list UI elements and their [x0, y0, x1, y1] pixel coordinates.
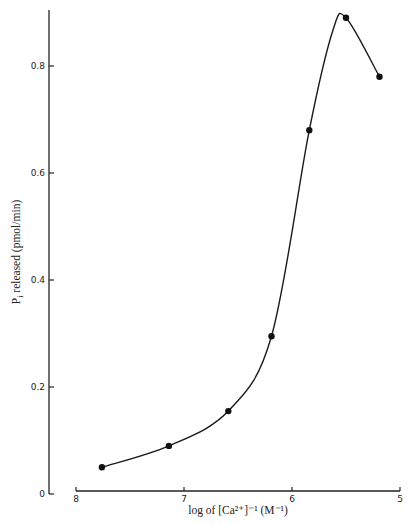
data-point — [99, 464, 105, 470]
data-point — [268, 333, 274, 339]
x-tick-label: 8 — [73, 494, 79, 504]
x-tick-label: 5 — [397, 494, 403, 504]
y-axis-label: Pi released (pmol/min) — [10, 200, 25, 305]
y-tick-label: 0 — [39, 489, 45, 499]
y-tick-label: 0.8 — [31, 61, 46, 71]
data-points — [99, 15, 383, 471]
chart: 00.20.40.60.8 8765 log of [Ca²⁺]⁻¹ (M⁻¹)… — [0, 0, 412, 525]
y-tick-label: 0.6 — [31, 168, 46, 178]
data-point — [343, 15, 349, 21]
x-tick-label: 7 — [181, 494, 187, 504]
data-point — [166, 443, 172, 449]
y-tick-label: 0.2 — [31, 382, 45, 392]
x-ticks: 8765 — [73, 487, 403, 504]
y-tick-label: 0.4 — [31, 275, 46, 285]
x-tick-label: 6 — [289, 494, 295, 504]
y-ticks: 00.20.40.60.8 — [31, 61, 54, 499]
fit-curve — [102, 13, 380, 467]
y-axis-label-rest: released (pmol/min) — [10, 200, 23, 296]
x-axis-label: log of [Ca²⁺]⁻¹ (M⁻¹) — [188, 504, 288, 517]
data-point — [306, 127, 312, 133]
data-point — [225, 408, 231, 414]
data-point — [376, 74, 382, 80]
